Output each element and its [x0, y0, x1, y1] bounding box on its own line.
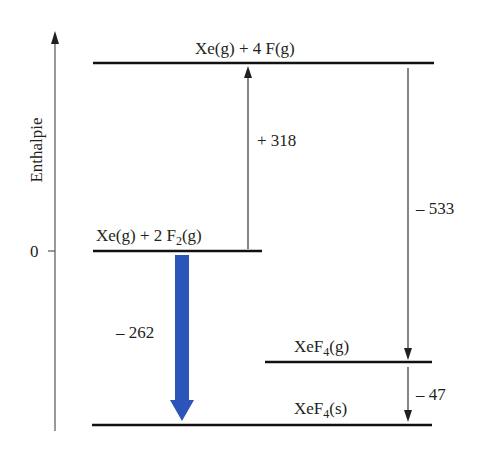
level-label: Xe(g) + 4 F(g) — [195, 39, 295, 58]
arrow-sublimation: – 47 — [404, 367, 446, 422]
arrow-bond-formation: – 533 — [404, 68, 454, 360]
enthalpy-axis: 0 Enthalpie — [27, 31, 59, 431]
arrow-formation: – 262 — [115, 255, 194, 421]
arrow-atomization: + 318 — [244, 66, 296, 249]
arrow-down-icon — [404, 410, 412, 422]
level-xe-2f2: Xe(g) + 2 F2(g) — [93, 226, 262, 251]
blue-arrow-icon — [170, 255, 194, 421]
level-label: Xe(g) + 2 F2(g) — [96, 226, 202, 248]
arrow-value: – 533 — [415, 199, 454, 218]
level-xe-4f: Xe(g) + 4 F(g) — [93, 39, 434, 63]
arrow-value: – 262 — [115, 323, 154, 342]
axis-arrow-icon — [51, 31, 59, 44]
axis-label: Enthalpie — [27, 117, 46, 182]
arrow-value: – 47 — [415, 385, 446, 404]
zero-tick-label: 0 — [30, 242, 39, 261]
arrow-down-icon — [404, 348, 412, 360]
level-xef4-s: XeF4(s) — [92, 399, 432, 425]
enthalpy-diagram: 0 Enthalpie Xe(g) + 4 F(g) Xe(g) + 2 F2(… — [0, 0, 489, 454]
arrow-value: + 318 — [257, 131, 296, 150]
level-label: XeF4(s) — [294, 399, 347, 421]
level-label: XeF4(g) — [294, 337, 349, 359]
arrow-up-icon — [244, 66, 252, 78]
